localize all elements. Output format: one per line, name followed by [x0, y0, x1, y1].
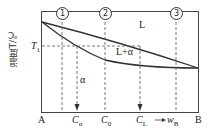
- x-label-wb: wB: [167, 115, 178, 129]
- marker-2: 2: [99, 7, 112, 20]
- liquidus-curve: [42, 22, 198, 68]
- y-axis-label: 温度T/℃: [6, 30, 19, 67]
- region-solid-label: α: [80, 75, 85, 85]
- phase-diagram: 温度T/℃ T1 1 2 3 L L+α α A Cα C0 CL wB B: [0, 0, 213, 130]
- region-liquid-label: L: [139, 20, 145, 30]
- region-two-phase-label: L+α: [116, 47, 133, 57]
- x-label-c0: C0: [101, 115, 111, 129]
- x-label-b: B: [195, 115, 202, 125]
- solidus-curve: [42, 22, 198, 68]
- t1-label: T1: [31, 41, 40, 55]
- marker-3: 3: [170, 7, 183, 20]
- marker-1: 1: [56, 7, 69, 20]
- x-label-c-alpha: Cα: [72, 115, 82, 129]
- x-label-a: A: [38, 115, 45, 125]
- x-label-c-l: CL: [136, 115, 147, 129]
- plot-frame: [42, 12, 199, 113]
